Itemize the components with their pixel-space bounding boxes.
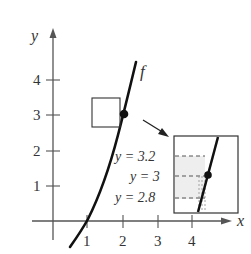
zoom-arrow [143,120,169,137]
y-tick-4: 4 [33,72,41,88]
y-tick-1: 1 [33,178,41,194]
y-tick-2: 2 [33,143,41,159]
function-zoom-diagram: y 1 2 3 4 x 1 2 3 4 f y = 3.2 y = 3 y [0,0,251,254]
inset-label-upper: y = 3.2 [113,149,155,164]
y-tick-3: 3 [33,107,41,123]
y-axis-label: y [29,27,39,45]
curve-label: f [140,62,147,81]
inset-label-lower: y = 2.8 [113,190,155,205]
x-axis-label: x [236,212,244,229]
x-tick-1: 1 [83,233,91,249]
zoom-inset [174,136,238,213]
x-tick-4: 4 [188,233,196,249]
y-axis [46,28,60,240]
highlighted-point [120,110,129,119]
zoom-region-box [92,98,120,127]
x-tick-3: 3 [154,233,162,249]
x-axis [32,215,232,228]
inset-label-center: y = 3 [128,169,160,184]
x-tick-2: 2 [119,233,127,249]
